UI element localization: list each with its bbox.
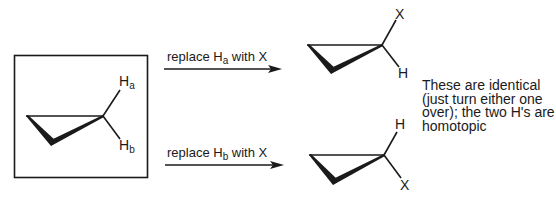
note-line: homotopic bbox=[422, 120, 556, 134]
product-a-top-label: X bbox=[395, 7, 404, 21]
product-b-top-label: H bbox=[395, 117, 405, 131]
cyclopropane-product-b bbox=[309, 132, 401, 185]
reaction-arrow-b bbox=[165, 161, 284, 169]
cyclopropane-start bbox=[26, 90, 120, 146]
homotopic-note: These are identical (just turn either on… bbox=[422, 79, 556, 133]
label-h-a: Ha bbox=[119, 74, 135, 88]
product-a-bottom-label: H bbox=[398, 66, 408, 80]
reaction-label-a: replace Ha with X bbox=[167, 50, 267, 64]
cyclopropane-product-a bbox=[307, 20, 399, 74]
reaction-arrow-a bbox=[164, 65, 282, 73]
label-h-b: Hb bbox=[119, 138, 135, 152]
reaction-label-b: replace Hb with X bbox=[167, 146, 267, 160]
product-b-bottom-label: X bbox=[400, 178, 409, 192]
